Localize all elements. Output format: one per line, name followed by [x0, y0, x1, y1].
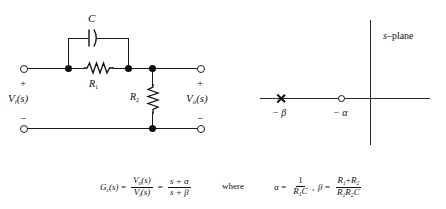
- resistor-r1-symbol: [84, 61, 114, 75]
- voltage-ratio-fraction: Vo(s) Vi(s): [131, 176, 153, 199]
- resistor-icon: [84, 61, 114, 75]
- node-d-dot: [149, 125, 156, 132]
- resistor-r2-symbol: [146, 84, 160, 114]
- s-plane-diagram: s–plane − β − α: [255, 0, 446, 160]
- zero-label-alpha: − α: [333, 108, 348, 118]
- equals-sign-alpha: =: [281, 182, 286, 192]
- where-word: where: [222, 181, 244, 191]
- fraction-denominator: Vi(s): [132, 188, 153, 199]
- node-c-dot: [149, 65, 156, 72]
- output-positive-terminal: [197, 65, 205, 73]
- fraction-numerator: R1+R2: [336, 176, 362, 188]
- input-voltage-label: Vi(s): [8, 93, 28, 106]
- output-negative-terminal: [197, 125, 205, 133]
- input-positive-terminal: [20, 65, 28, 73]
- transfer-function-equation: Gc(s) = Vo(s) Vi(s) = s + α s + β: [100, 176, 193, 199]
- pole-marker-beta: [275, 93, 286, 104]
- capacitor-branch-top-left-wire: [68, 38, 88, 39]
- equals-sign-2: =: [158, 182, 163, 192]
- circuit-diagram: C R1 R2: [0, 0, 240, 160]
- capacitor-branch-top-right-wire: [97, 38, 129, 39]
- fraction-numerator: Vo(s): [131, 176, 153, 188]
- fraction-numerator: s + α: [168, 177, 191, 188]
- output-plus-sign: +: [197, 78, 203, 89]
- fraction-denominator: R1C: [291, 187, 309, 198]
- equals-sign-beta: =: [325, 182, 330, 192]
- fraction-numerator: 1: [296, 176, 305, 187]
- node-b-dot: [125, 65, 132, 72]
- imaginary-axis: [370, 20, 371, 145]
- beta-symbol: β: [318, 182, 322, 192]
- resistor-icon: [146, 84, 160, 114]
- capacitor-label: C: [88, 13, 95, 24]
- pole-label-beta: − β: [272, 108, 286, 118]
- input-negative-terminal: [20, 125, 28, 133]
- resistor-r1-label: R1: [89, 79, 98, 90]
- resistor-r2-label: R2: [130, 92, 139, 103]
- beta-fraction: R1+R2 R1R2C: [335, 176, 362, 199]
- output-minus-sign: −: [197, 113, 203, 124]
- output-voltage-label: Vo(s): [186, 93, 208, 106]
- equals-sign-1: =: [121, 182, 126, 192]
- capacitor-icon: [86, 29, 100, 47]
- figure-canvas: C R1 R2: [0, 0, 446, 209]
- alpha-definition-equation: α = 1 R1C ,: [274, 176, 314, 198]
- alpha-symbol: α: [274, 182, 279, 192]
- capacitor-symbol: [86, 29, 100, 47]
- zero-pole-fraction: s + α s + β: [168, 177, 191, 198]
- s-plane-title: s–plane: [383, 31, 414, 41]
- bottom-rail-left-wire: [26, 128, 155, 129]
- zero-marker-alpha: [338, 95, 345, 102]
- bottom-rail-right-wire: [152, 128, 199, 129]
- alpha-fraction: 1 R1C: [291, 176, 309, 198]
- fraction-denominator: s + β: [168, 188, 191, 198]
- input-plus-sign: +: [20, 78, 26, 89]
- comma-separator: ,: [312, 182, 314, 192]
- gc-symbol: Gc(s): [100, 182, 118, 193]
- node-a-dot: [65, 65, 72, 72]
- output-top-wire: [152, 68, 199, 69]
- input-minus-sign: −: [20, 113, 26, 124]
- fraction-denominator: R1R2C: [335, 188, 362, 199]
- beta-definition-equation: β = R1+R2 R1R2C: [318, 176, 364, 199]
- where-text: where: [222, 181, 244, 191]
